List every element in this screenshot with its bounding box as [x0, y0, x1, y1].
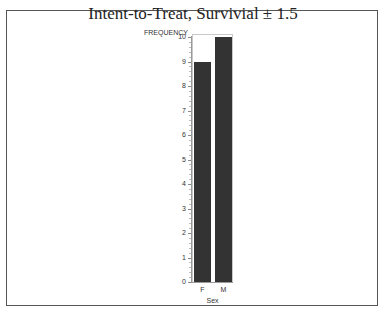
y-tick-label: 9: [174, 58, 186, 65]
bar-M: [215, 37, 232, 282]
y-tick-label: 6: [174, 131, 186, 138]
y-tick-label: 0: [174, 278, 186, 285]
y-tick-label: 1: [174, 254, 186, 261]
y-tick-label: 3: [174, 205, 186, 212]
y-tick-label: 4: [174, 180, 186, 187]
bar-F: [194, 62, 211, 283]
y-tick-label: 7: [174, 107, 186, 114]
x-tick-label: M: [215, 286, 232, 293]
y-tick-label: 5: [174, 156, 186, 163]
x-axis-label: Sex: [192, 297, 233, 304]
chart-title: Intent-to-Treat, Survivial ± 1.5: [0, 4, 386, 24]
y-tick-label: 2: [174, 229, 186, 236]
y-tick-label: 8: [174, 82, 186, 89]
x-tick-label: F: [194, 286, 211, 293]
y-tick-label: 10: [174, 33, 186, 40]
y-axis-line: [191, 36, 192, 282]
x-axis-line: [191, 282, 233, 283]
